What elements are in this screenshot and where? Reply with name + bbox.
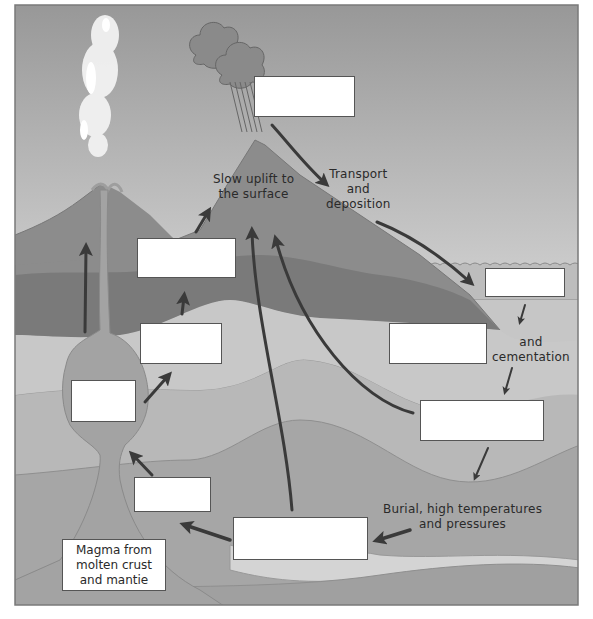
cementation-label: and cementation xyxy=(492,335,570,365)
transport-label-line1: Transport xyxy=(326,167,391,182)
magma-label-line3: and mantie xyxy=(63,573,165,588)
burial-label-line2: and pressures xyxy=(383,517,542,532)
blank-box-magma-chamber[interactable] xyxy=(71,380,136,422)
rock-cycle-diagram: Slow uplift to the surface Transport and… xyxy=(0,0,593,619)
transport-label-line2: and xyxy=(326,182,391,197)
uplift-label-line2: the surface xyxy=(213,187,294,202)
cementation-label-line1: and xyxy=(492,335,570,350)
blank-box-intrusive[interactable] xyxy=(140,323,222,364)
blank-box-metamorphic-rock[interactable] xyxy=(420,400,544,441)
transport-label: Transport and deposition xyxy=(326,167,391,212)
burial-label: Burial, high temperatures and pressures xyxy=(383,502,542,532)
blank-box-melting[interactable] xyxy=(233,517,368,560)
blank-box-sediment[interactable] xyxy=(485,268,565,297)
blank-box-magma-rise[interactable] xyxy=(134,477,211,512)
magma-label-line1: Magma from xyxy=(63,543,165,558)
blank-box-weathering[interactable] xyxy=(254,76,355,117)
uplift-label: Slow uplift to the surface xyxy=(213,172,294,202)
blank-box-sedimentary-rock[interactable] xyxy=(389,323,487,364)
magma-label-line2: molten crust xyxy=(63,558,165,573)
uplift-label-line1: Slow uplift to xyxy=(213,172,294,187)
magma-source-label: Magma from molten crust and mantie xyxy=(62,539,166,591)
blank-box-igneous-rock[interactable] xyxy=(137,238,236,278)
burial-label-line1: Burial, high temperatures xyxy=(383,502,542,517)
cementation-label-line2: cementation xyxy=(492,350,570,365)
transport-label-line3: deposition xyxy=(326,197,391,212)
